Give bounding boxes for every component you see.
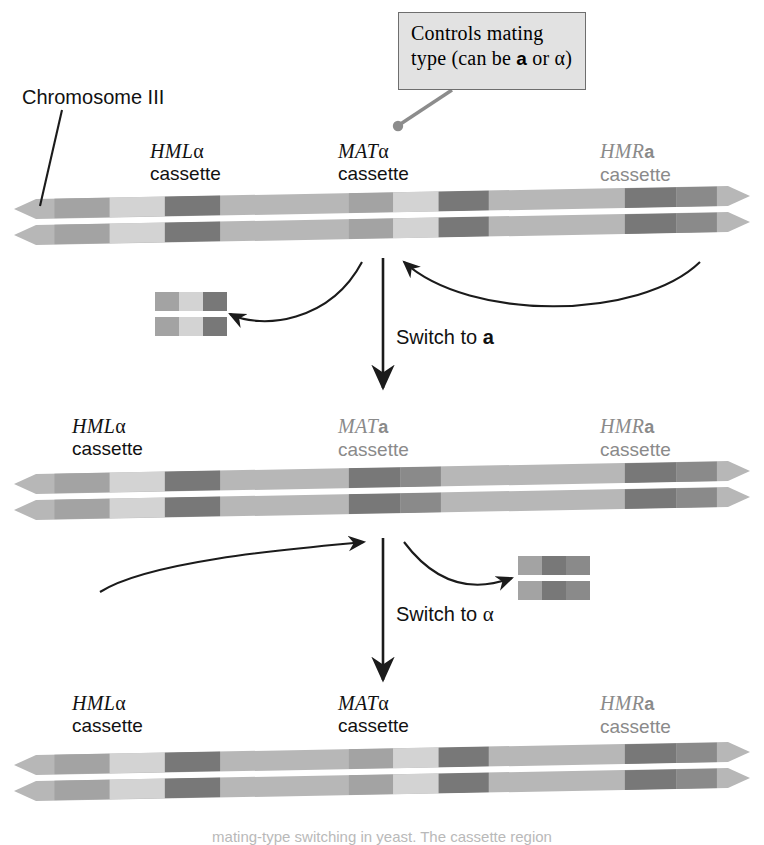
switch-label-1: Switch to a [396, 326, 494, 349]
row-1-gene-hmr: HMRa [600, 140, 671, 163]
row-1-label-hml: HMLαcassette [150, 140, 221, 186]
row-1-cassette-word: cassette [150, 162, 221, 186]
row-1-gene-mat: MATα [338, 140, 409, 162]
chromosome-row-3 [14, 742, 750, 801]
row-2-gene-hml: HMLα [72, 415, 143, 437]
callout-line-2-post: or α) [527, 47, 572, 69]
row-3-gene-mat: MATα [338, 692, 409, 714]
row-3-gene-hmr: HMRa [600, 692, 671, 715]
switch-1-text: Switch to [396, 326, 483, 348]
row-3-label-hml: HMLαcassette [72, 692, 143, 738]
row-1-cassette-word: cassette [338, 162, 409, 186]
row-3-cassette-word: cassette [338, 714, 409, 738]
row-3-cassette-word: cassette [600, 715, 671, 739]
row-2-label-hmr: HMRacassette [600, 415, 671, 462]
row-2-cassette-word: cassette [72, 437, 143, 461]
row-1-label-hmr: HMRacassette [600, 140, 671, 187]
row-3-gene-hml: HMLα [72, 692, 143, 714]
switch-1-donor-arrow [404, 262, 700, 306]
gene-allele: α [378, 140, 389, 162]
gene-base: MAT [338, 140, 378, 162]
switch-2-target: α [483, 602, 494, 626]
gene-base: HMR [600, 140, 644, 162]
gene-allele: α [115, 692, 126, 714]
callout-leader [393, 90, 452, 131]
switch-1-excision-arrow [230, 262, 362, 321]
chromosome-iii-label: Chromosome III [22, 86, 164, 109]
gene-allele: a [378, 417, 388, 437]
row-3-label-mat: MATαcassette [338, 692, 409, 738]
gene-base: HML [72, 415, 115, 437]
row-2-label-hml: HMLαcassette [72, 415, 143, 461]
gene-base: MAT [338, 692, 378, 714]
row-1-label-mat: MATαcassette [338, 140, 409, 186]
gene-base: MAT [338, 415, 378, 437]
gene-allele: a [644, 694, 654, 714]
chromosome-leader-line [40, 110, 62, 206]
gene-base: HMR [600, 415, 644, 437]
switch-2-excision-arrow [404, 542, 512, 585]
switch-2-text: Switch to [396, 603, 483, 625]
gene-allele: a [644, 142, 654, 162]
gene-allele: α [115, 415, 126, 437]
callout-line-1: Controls mating [411, 22, 543, 44]
callout-line-2-pre: type (can be [411, 47, 516, 69]
gene-base: HML [72, 692, 115, 714]
fragment-alpha-excised [155, 292, 227, 336]
gene-allele: α [378, 692, 389, 714]
gene-base: HMR [600, 692, 644, 714]
row-3-label-hmr: HMRacassette [600, 692, 671, 739]
callout-mating-type-a: a [516, 48, 527, 69]
gene-allele: a [644, 417, 654, 437]
switch-2-donor-arrow [100, 542, 364, 592]
callout-box: Controls mating type (can be a or α) [398, 12, 586, 90]
switch-label-2: Switch to α [396, 602, 494, 627]
row-2-label-mat: MATacassette [338, 415, 409, 462]
fragment-a-excised [518, 556, 590, 600]
row-2-cassette-word: cassette [338, 438, 409, 462]
row-3-cassette-word: cassette [72, 714, 143, 738]
row-1-cassette-word: cassette [600, 163, 671, 187]
row-1-gene-hml: HMLα [150, 140, 221, 162]
switch-1-target: a [483, 326, 494, 348]
row-2-gene-hmr: HMRa [600, 415, 671, 438]
gene-allele: α [193, 140, 204, 162]
figure-bottom-caption: mating-type switching in yeast. The cass… [0, 828, 764, 845]
chromosome-row-2 [14, 461, 750, 520]
gene-base: HML [150, 140, 193, 162]
row-2-gene-mat: MATa [338, 415, 409, 438]
row-2-cassette-word: cassette [600, 438, 671, 462]
chromosome-row-1 [14, 186, 750, 245]
